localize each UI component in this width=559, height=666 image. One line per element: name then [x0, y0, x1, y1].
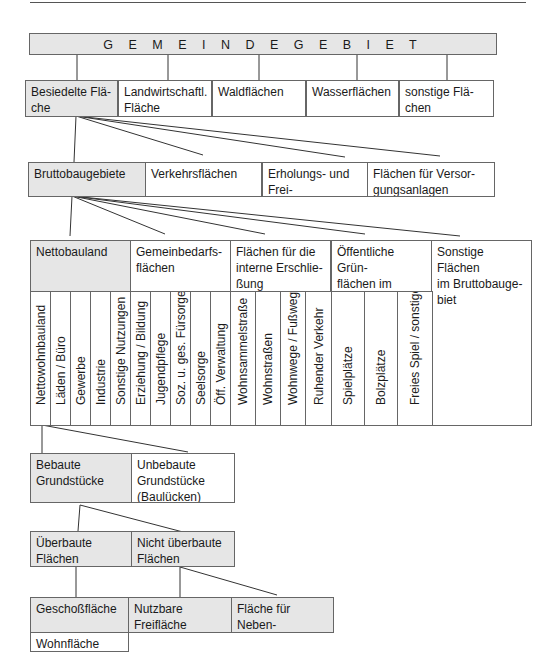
leaf-label: Sonstige Nutzungen: [114, 297, 128, 405]
leaf-freies-spiel-sonstiges: Freies Spiel / sonstiges: [397, 291, 433, 426]
leaf-label: Ruhender Verkehr: [312, 308, 326, 405]
leaf-öff-verwaltung: Öff. Verwaltung: [210, 291, 232, 426]
leaf-label: Spielplätze: [341, 346, 355, 405]
leaf-label: Freies Spiel / sonstiges: [408, 291, 422, 405]
node-bruttobaugebiete: Bruttobaugebiete: [28, 162, 146, 197]
leaf-jugendpflege: Jugendpflege: [150, 291, 171, 426]
node-erholungs-und-frei-flächen: Erholungs- und Frei- flächen: [262, 162, 368, 197]
node-nettobauland: Nettobauland: [30, 240, 131, 292]
leaf-gewerbe: Gewerbe: [70, 291, 91, 426]
node-flächen-für-die-interne-erschlie-ßung: Flächen für die interne Erschlie- ßung: [230, 240, 331, 292]
leaf-label: Jugendpflege: [154, 333, 168, 405]
node-landwirtschaftl-fläche: Landwirtschaftl. Fläche: [118, 80, 212, 117]
node-nicht-überbaute-flächen: Nicht überbaute Flächen: [131, 531, 235, 567]
node-sonstige-flächen-im-bruttobauge-biet: Sonstige Flächen im Bruttobauge- biet: [431, 240, 532, 426]
leaf-ruhender-verkehr: Ruhender Verkehr: [305, 291, 332, 426]
leaf-nettowohnbauland: Nettowohnbauland: [30, 291, 51, 426]
leaf-industrie: Industrie: [90, 291, 111, 426]
node-wasserflächen: Wasserflächen: [306, 80, 399, 117]
node-flächen-für-versor-gungsanlagen: Flächen für Versor- gungsanlagen: [367, 162, 495, 197]
node-fläche-für-neben-anlagen: Fläche für Neben- anlagen: [231, 597, 334, 633]
leaf-label: Wohnsammelstraße: [236, 298, 250, 405]
leaf-spielplätze: Spielplätze: [331, 291, 365, 426]
node-unbebaute-grundstücke-baulücken: Unbebaute Grundstücke (Baulücken): [131, 453, 235, 503]
leaf-seelsorge: Seelsorge: [190, 291, 211, 426]
node-bebaute-grundstücke: Bebaute Grundstücke: [30, 453, 132, 503]
leaf-label: Erziehung / Bildung: [134, 301, 148, 405]
leaf-wohnsammelstraße: Wohnsammelstraße: [230, 291, 256, 426]
node-öffentliche-grün-flächen-im-brutto-baugebiet: Öffentliche Grün- flächen im Brutto- bau…: [331, 240, 432, 292]
root-node-gemeindegebiet: G E M E I N D E G E B I E T: [29, 33, 497, 55]
leaf-label: Gewerbe: [74, 356, 88, 405]
leaf-label: Wohnwege / Fußwege: [286, 291, 300, 405]
leaf-label: Seelsorge: [194, 351, 208, 405]
node-verkehrsflächen: Verkehrsflächen: [145, 162, 262, 197]
node-überbaute-flächen: Überbaute Flächen: [30, 531, 132, 567]
leaf-läden-büro: Läden / Büro: [50, 291, 71, 426]
node-nutzbare-freifläche: Nutzbare Freifläche: [128, 597, 232, 633]
leaf-label: Industrie: [94, 359, 108, 405]
node-sonstige-flä-chen: sonstige Flä- chen: [399, 80, 494, 117]
leaf-bolzplätze: Bolzplätze: [364, 291, 398, 426]
node-wohnfläche: Wohnfläche: [30, 632, 129, 652]
leaf-wohnstraßen: Wohnstraßen: [255, 291, 281, 426]
node-waldflächen: Waldflächen: [212, 80, 306, 117]
leaf-label: Soz. u. ges. Fürsorge: [174, 291, 188, 405]
leaf-label: Bolzplätze: [374, 350, 388, 405]
leaf-label: Wohnstraßen: [261, 333, 275, 405]
leaf-sonstige-nutzungen: Sonstige Nutzungen: [110, 291, 132, 426]
node-besiedelte-flä-che: Besiedelte Flä- che: [25, 80, 118, 117]
leaf-soz-u-ges-fürsorge: Soz. u. ges. Fürsorge: [170, 291, 191, 426]
node-gemeinbedarfs-flächen: Gemeinbedarfs- flächen: [130, 240, 231, 292]
leaf-label: Nettowohnbauland: [34, 305, 48, 405]
node-geschoßfläche: Geschoßfläche: [30, 597, 129, 633]
leaf-wohnwege-fußwege: Wohnwege / Fußwege: [280, 291, 306, 426]
leaf-label: Läden / Büro: [54, 336, 68, 405]
leaf-erziehung-bildung: Erziehung / Bildung: [130, 291, 151, 426]
leaf-label: Öff. Verwaltung: [214, 323, 228, 405]
